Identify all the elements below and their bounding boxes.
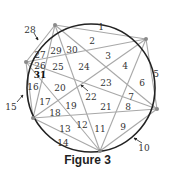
region-label-3: 3 [105, 51, 111, 61]
region-label-31: 31 [34, 70, 47, 80]
region-label-21: 21 [100, 102, 111, 112]
region-label-9: 9 [120, 122, 126, 132]
region-label-25: 25 [52, 62, 64, 72]
region-label-2: 2 [89, 36, 95, 46]
region-label-24: 24 [78, 62, 90, 72]
region-label-17: 17 [39, 97, 51, 107]
figure-caption: Figure 3 [0, 153, 175, 167]
region-label-22: 22 [85, 92, 96, 102]
vertex-A [53, 23, 57, 27]
region-label-19: 19 [65, 101, 77, 111]
vertex-F [24, 60, 28, 64]
region-label-6: 6 [139, 78, 145, 88]
vertex-B [144, 37, 148, 41]
region-label-7: 7 [128, 92, 134, 102]
region-label-16: 16 [27, 82, 39, 92]
region-label-23: 23 [100, 78, 112, 88]
region-label-15: 15 [5, 102, 17, 112]
region-label-18: 18 [49, 108, 61, 118]
region-label-4: 4 [122, 61, 128, 71]
region-label-12: 12 [76, 120, 87, 130]
region-label-11: 11 [94, 124, 105, 134]
region-label-20: 20 [54, 83, 66, 93]
region-label-13: 13 [59, 124, 71, 134]
region-label-27: 27 [34, 50, 46, 60]
vertex-C [155, 107, 159, 111]
region-label-8: 8 [125, 102, 131, 112]
region-label-28: 28 [24, 25, 36, 35]
region-label-5: 5 [153, 69, 159, 79]
arrow-to-region-15 [17, 95, 23, 102]
region-label-30: 30 [66, 45, 78, 55]
region-label-1: 1 [98, 22, 104, 32]
region-label-10: 10 [138, 143, 150, 153]
arrow-to-region-22 [81, 85, 88, 91]
region-label-14: 14 [57, 138, 69, 148]
chord-diagram: 1234567891011121314151617181920212223242… [0, 0, 175, 173]
region-label-29: 29 [50, 46, 62, 56]
vertex-E [31, 116, 35, 120]
